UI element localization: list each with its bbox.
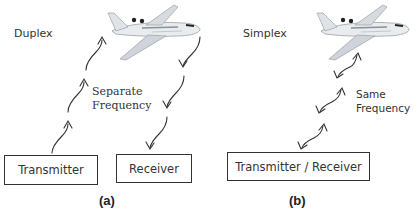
- mode-label-duplex: Duplex: [14, 27, 53, 40]
- airplane-icon: [108, 5, 200, 60]
- frequency-label: Same Frequency: [356, 87, 410, 115]
- frequency-label-line2: Frequency: [92, 99, 152, 113]
- frequency-label-line2: Frequency: [356, 101, 410, 115]
- wavy-double-arrow: [298, 53, 361, 149]
- frequency-label-line1: Separate: [92, 85, 152, 99]
- receiver-box: Receiver: [116, 154, 192, 183]
- caption-b: (b): [289, 193, 306, 208]
- transmitter-box: Transmitter: [4, 155, 98, 185]
- airplane-icon: [317, 5, 409, 60]
- transmitter-receiver-box: Transmitter / Receiver: [227, 152, 370, 181]
- wavy-arrow-down: [146, 37, 200, 149]
- frequency-label: Separate Frequency: [92, 85, 152, 113]
- mode-label-simplex: Simplex: [243, 27, 287, 40]
- frequency-label-line1: Same: [356, 87, 410, 101]
- caption-a: (a): [99, 193, 115, 208]
